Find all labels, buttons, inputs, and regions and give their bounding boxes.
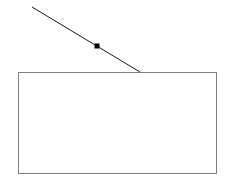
figure-svg [0,0,227,185]
diagram-canvas [0,0,227,185]
rectangle-shape [0,0,227,185]
point-marker-icon [95,44,100,49]
